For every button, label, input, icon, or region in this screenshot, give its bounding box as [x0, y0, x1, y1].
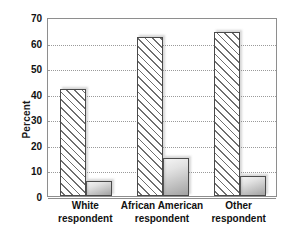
bar-series-2-2: [240, 176, 266, 196]
y-axis-tick-label: 50: [16, 64, 42, 75]
bar-chart: Percent 010203040506070 WhiterespondentA…: [0, 0, 288, 239]
bar-series-2-1: [163, 158, 189, 196]
y-axis-tick-label: 60: [16, 38, 42, 49]
bar-series-1-1: [137, 37, 163, 196]
y-axis-tick-label: 30: [16, 115, 42, 126]
x-axis-category-label-line: respondent: [187, 212, 288, 225]
y-axis-tick-labels: 010203040506070: [16, 18, 42, 197]
y-axis-tick-label: 20: [16, 140, 42, 151]
x-axis-category-label: Otherrespondent: [187, 199, 288, 225]
bars-layer: [48, 19, 276, 196]
x-axis-category-labels: WhiterespondentAfrican Americanresponden…: [47, 199, 277, 239]
plot-area: [47, 18, 277, 197]
y-axis-tick-label: 70: [16, 13, 42, 24]
x-axis-category-label-line: Other: [187, 199, 288, 212]
bar-group: [214, 19, 266, 196]
bar-series-2-0: [86, 181, 112, 196]
y-axis-tick-label: 40: [16, 89, 42, 100]
bar-series-1-0: [60, 89, 86, 196]
y-axis-tick-label: 10: [16, 166, 42, 177]
bar-group: [137, 19, 189, 196]
bar-series-1-2: [214, 32, 240, 196]
bar-group: [60, 19, 112, 196]
